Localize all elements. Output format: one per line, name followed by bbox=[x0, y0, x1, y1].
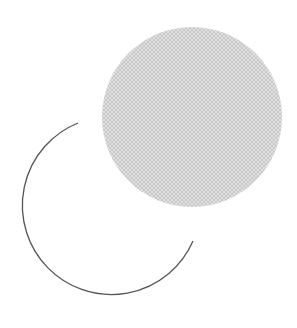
filled-circle bbox=[102, 27, 282, 207]
figure-canvas bbox=[0, 0, 297, 328]
